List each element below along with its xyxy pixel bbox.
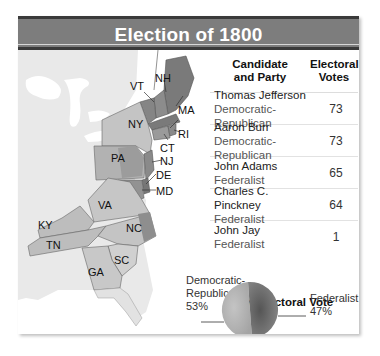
- pie-slice-federalist: [248, 282, 278, 334]
- pie-slice-dem-rep: [222, 282, 252, 334]
- pie-chart: [18, 16, 359, 334]
- election-1800-panel: Election of 1800: [18, 16, 359, 334]
